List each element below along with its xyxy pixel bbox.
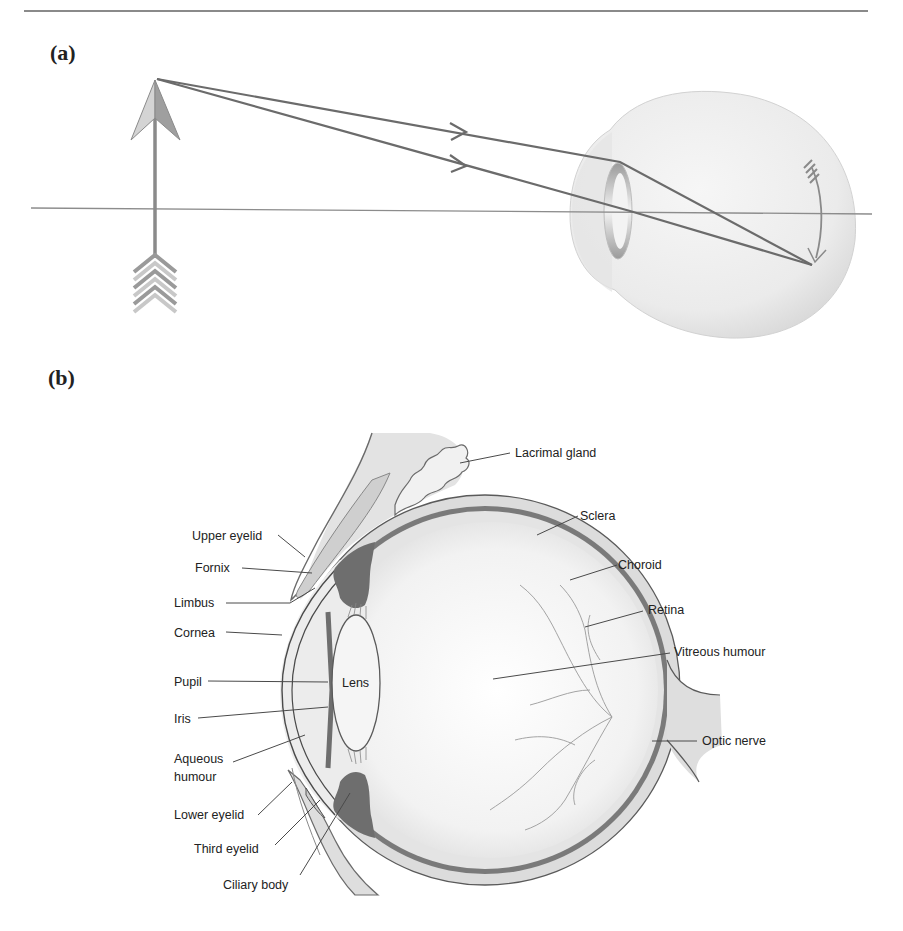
label-lacrimal-gland: Lacrimal gland bbox=[515, 446, 596, 460]
label-cornea: Cornea bbox=[174, 626, 215, 640]
label-vitreous-humour: Vitreous humour bbox=[674, 645, 766, 659]
label-limbus: Limbus bbox=[174, 596, 214, 610]
label-upper-eyelid: Upper eyelid bbox=[192, 529, 262, 543]
label-choroid: Choroid bbox=[618, 558, 662, 572]
label-optic-nerve: Optic nerve bbox=[702, 734, 766, 748]
lens-label: Lens bbox=[342, 676, 369, 690]
label-aqueous-line1: Aqueous bbox=[174, 752, 223, 766]
label-lower-eyelid: Lower eyelid bbox=[174, 808, 244, 822]
label-iris: Iris bbox=[174, 712, 191, 726]
panel-b-eye-anatomy: Lens bbox=[0, 0, 903, 931]
label-sclera: Sclera bbox=[580, 509, 615, 523]
label-aqueous-line2: humour bbox=[174, 770, 216, 784]
label-pupil: Pupil bbox=[174, 675, 202, 689]
label-fornix: Fornix bbox=[195, 561, 230, 575]
label-retina: Retina bbox=[648, 603, 684, 617]
label-ciliary-body: Ciliary body bbox=[223, 878, 289, 892]
label-third-eyelid: Third eyelid bbox=[194, 842, 259, 856]
